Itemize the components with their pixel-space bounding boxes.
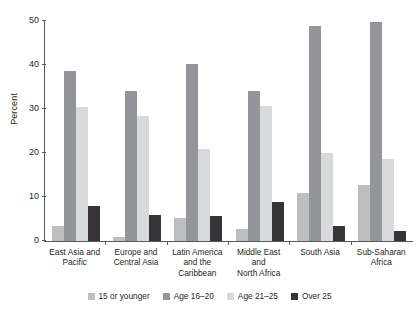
plot-area: 01020304050 [44,21,413,242]
grouped-bar-chart: Percent 01020304050 East Asia andPacific… [0,0,419,315]
bar [309,26,321,241]
bar [321,153,333,241]
x-axis-category-label-line: Sub-Saharan [352,247,411,257]
legend-label: Age 16–20 [174,291,214,301]
y-axis-tick: 40 [11,60,39,69]
bar [125,91,137,241]
bar-group [229,21,290,241]
bar-group-bars [290,21,351,241]
x-axis-category-label-line: Europe and [106,247,165,257]
x-axis-category-label-line: and the [168,257,227,267]
bar [333,226,345,241]
bar-group [45,21,106,241]
bar [137,116,149,241]
legend-swatch-icon [227,293,234,300]
bar [88,206,100,241]
x-axis-tick-mark [228,241,229,245]
bar [198,149,210,241]
bar-group-bars [45,21,106,241]
x-axis-tick-mark [105,241,106,245]
legend-label: Over 25 [302,291,332,301]
legend-item[interactable]: Age 21–25 [227,291,278,301]
bar [382,159,394,241]
y-axis-tick: 30 [11,104,39,113]
legend-item[interactable]: Age 16–20 [163,291,214,301]
y-axis-tick: 0 [11,236,39,245]
y-axis-tick: 50 [11,16,39,25]
x-axis-tick-mark [351,241,352,245]
x-axis-category-label-line: and [229,257,288,267]
bar [174,218,186,241]
bar [64,71,76,241]
x-axis-category-label: Sub-SaharanAfrica [351,247,412,278]
bar [248,91,260,241]
legend-item[interactable]: 15 or younger [88,291,150,301]
x-axis-category-label-line: Central Asia [106,257,165,267]
x-axis-category-label-line: East Asia and [45,247,104,257]
bar-group [106,21,167,241]
bar [236,229,248,241]
bar-group [290,21,351,241]
bar-groups [45,21,413,241]
bar-group [168,21,229,241]
x-axis-category-label-line: Africa [352,257,411,267]
bar [358,185,370,241]
x-axis-category-label-line: Latin America [168,247,227,257]
x-axis-category-label-line: Pacific [45,257,104,267]
legend-item[interactable]: Over 25 [291,291,332,301]
bar [76,107,88,241]
x-axis-tick-mark [167,241,168,245]
legend-label: Age 21–25 [238,291,278,301]
legend-swatch-icon [88,293,95,300]
y-axis-tick: 20 [11,148,39,157]
bar [370,22,382,241]
x-axis-category-label-line: Middle East [229,247,288,257]
x-axis-category-label: Latin Americaand theCaribbean [167,247,228,278]
x-axis-category-label-line: North Africa [229,268,288,278]
x-axis-category-label-line: South Asia [290,247,349,257]
bar-group-bars [106,21,167,241]
x-axis-category-label: Middle EastandNorth Africa [228,247,289,278]
bar [186,64,198,241]
x-axis-category-label: Europe andCentral Asia [105,247,166,278]
bar [52,226,64,241]
bar-group-bars [229,21,290,241]
legend-swatch-icon [163,293,170,300]
bar [113,237,125,241]
bar [260,106,272,241]
chart-legend: 15 or youngerAge 16–20Age 21–25Over 25 [0,291,419,301]
x-axis-tick-mark [289,241,290,245]
bar [394,231,406,241]
bar [272,202,284,241]
bar [297,193,309,241]
bar-group [352,21,413,241]
x-axis-category-label: East Asia andPacific [44,247,105,278]
bar [210,216,222,241]
x-axis-category-label-line: Caribbean [168,268,227,278]
bar-group-bars [352,21,413,241]
x-axis-category-labels: East Asia andPacificEurope andCentral As… [44,247,412,278]
bar [149,215,161,241]
x-axis-category-label: South Asia [289,247,350,278]
legend-label: 15 or younger [99,291,150,301]
legend-swatch-icon [291,293,298,300]
bar-group-bars [168,21,229,241]
y-axis-tick: 10 [11,192,39,201]
